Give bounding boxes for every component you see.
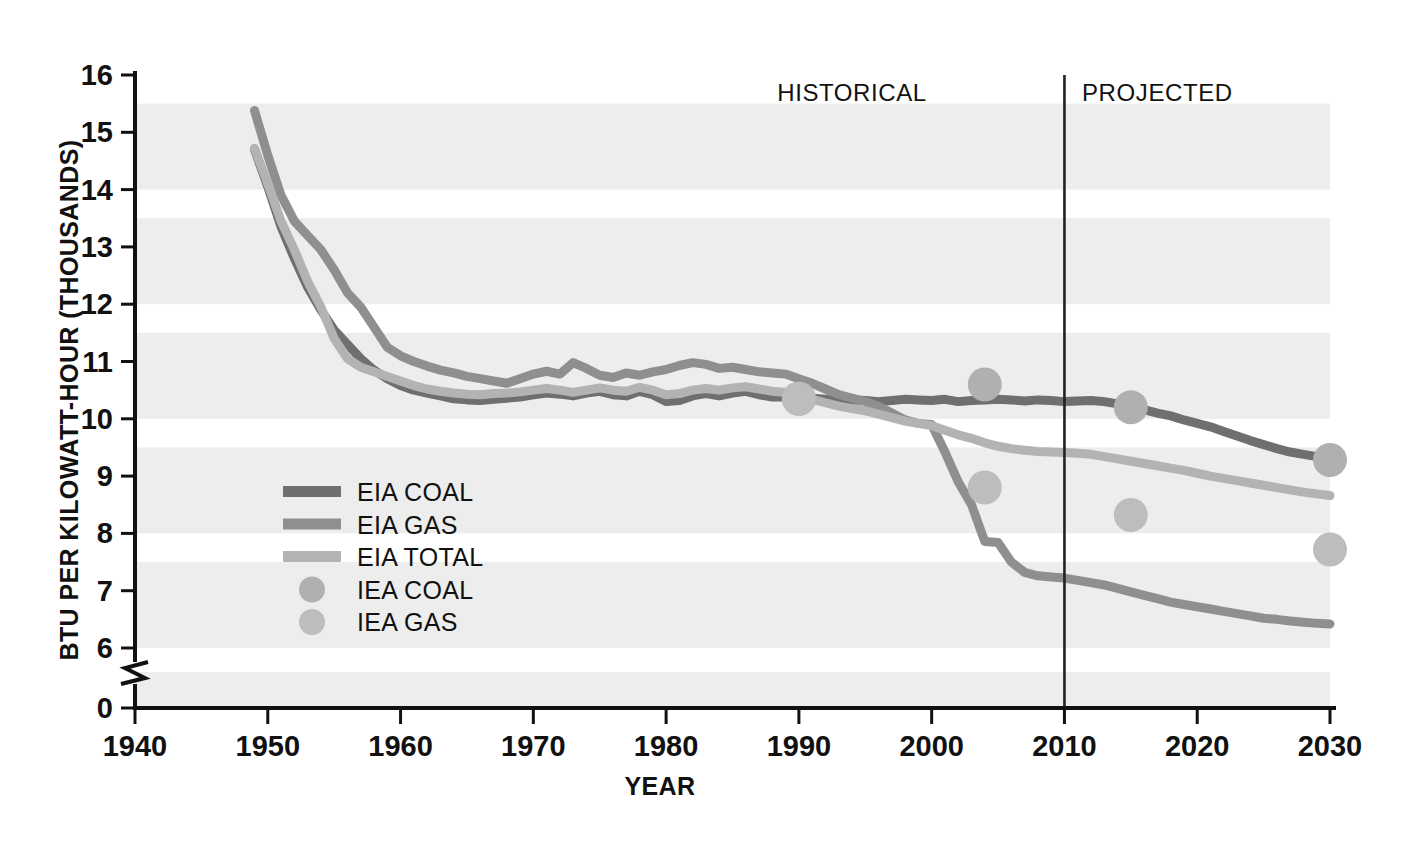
marker-iea-coal: [1114, 390, 1148, 424]
chart-svg: 1940195019601970198019902000201020202030…: [0, 0, 1408, 849]
x-tick-label: 2030: [1298, 730, 1363, 762]
x-tick-label: 1980: [634, 730, 699, 762]
legend-label-eia-total: EIA TOTAL: [357, 543, 483, 571]
band-row: [135, 333, 1330, 419]
legend-swatch-iea-coal: [299, 577, 325, 603]
marker-iea-gas: [1114, 498, 1148, 532]
x-tick-label: 1950: [236, 730, 301, 762]
legend-label-eia-coal: EIA COAL: [357, 478, 473, 506]
y-tick-label: 8: [97, 517, 113, 549]
y-tick-label: 16: [81, 59, 113, 91]
x-tick-label: 1990: [767, 730, 832, 762]
y-tick-label: 14: [81, 174, 113, 206]
y-tick-label: 10: [81, 403, 113, 435]
projected-label: PROJECTED: [1082, 79, 1233, 106]
y-tick-label: 11: [82, 346, 113, 378]
x-axis-ticks: 1940195019601970198019902000201020202030: [103, 708, 1363, 762]
x-tick-label: 2020: [1165, 730, 1230, 762]
legend-label-iea-coal: IEA COAL: [357, 576, 473, 604]
y-tick-label: 0: [97, 692, 113, 724]
y-tick-label: 13: [81, 231, 113, 263]
x-tick-label: 2000: [899, 730, 964, 762]
legend-swatch-eia-coal: [283, 486, 341, 497]
y-tick-label: 15: [81, 116, 113, 148]
band-row: [135, 104, 1330, 190]
y-tick-label: 9: [97, 460, 113, 492]
y-axis-title: BTU PER KILOWATT-HOUR (THOUSANDS): [55, 139, 83, 660]
historical-label: HISTORICAL: [777, 79, 927, 106]
series-line-eia-total: [255, 148, 1331, 495]
marker-iea-gas: [1313, 532, 1347, 566]
y-tick-label: 7: [97, 575, 113, 607]
marker-iea-coal: [968, 367, 1002, 401]
chart-figure: 1940195019601970198019902000201020202030…: [0, 0, 1408, 849]
y-tick-label: 12: [81, 288, 113, 320]
marker-iea-coal: [1313, 443, 1347, 477]
region-labels: HISTORICALPROJECTED: [777, 79, 1233, 106]
legend-swatch-eia-total: [283, 551, 341, 562]
marker-iea-gas: [782, 382, 816, 416]
x-axis-title: YEAR: [624, 772, 695, 800]
y-tick-label: 6: [97, 632, 113, 664]
legend-label-iea-gas: IEA GAS: [357, 608, 458, 636]
x-tick-label: 1960: [368, 730, 433, 762]
band-row: [135, 672, 1330, 708]
x-tick-label: 1970: [501, 730, 566, 762]
x-tick-label: 2010: [1032, 730, 1097, 762]
marker-iea-gas: [968, 471, 1002, 505]
legend-swatch-iea-gas: [299, 609, 325, 635]
legend-swatch-eia-gas: [283, 519, 341, 530]
band-row: [135, 562, 1330, 648]
y-axis-ticks: 0678910111213141516: [81, 59, 135, 724]
x-tick-label: 1940: [103, 730, 168, 762]
legend-label-eia-gas: EIA GAS: [357, 511, 458, 539]
